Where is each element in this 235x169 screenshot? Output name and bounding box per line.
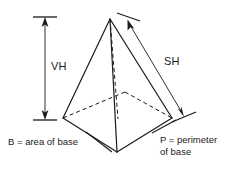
base-edge-back-left (63, 92, 125, 118)
edge-apex-to-front (110, 19, 117, 152)
base-perimeter-caption: P = perimeter of base (160, 134, 217, 157)
base-perimeter-leader-line (152, 120, 176, 133)
base-area-caption: B = area of base (8, 136, 78, 148)
slant-height-label: SH (164, 55, 180, 67)
sh-top-tick (117, 13, 140, 21)
base-perimeter-caption-line2: of base (160, 146, 217, 158)
base-perimeter-caption-line1: P = perimeter (160, 134, 217, 146)
pyramid-solid-edges (63, 19, 172, 152)
sh-bottom-arrowhead (178, 106, 185, 117)
edge-apex-to-right (110, 19, 172, 118)
base-edge-back-right (125, 92, 172, 118)
base-area-leader-line (86, 132, 112, 152)
vertical-height-label: VH (51, 60, 67, 72)
sh-dimension-line (130, 25, 181, 111)
edge-apex-to-left (63, 19, 110, 118)
pyramid-diagram: VH SH B = area of base P = perimeter of … (0, 0, 235, 169)
slant-height-dimension (117, 13, 196, 122)
sh-top-arrowhead (128, 20, 135, 31)
